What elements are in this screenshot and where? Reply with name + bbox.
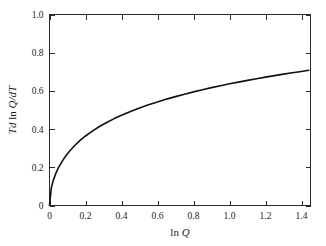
y-tick-label: 0.2: [32, 163, 44, 173]
line-chart: 00.20.40.60.81.01.21.4 00.20.40.60.81.0 …: [0, 0, 326, 246]
y-tick-label: 0: [39, 201, 44, 211]
x-tick-label: 1.0: [224, 211, 236, 221]
x-tick-label: 1.2: [260, 211, 272, 221]
figure-background: [0, 0, 326, 246]
x-tick-label: 0.6: [152, 211, 164, 221]
y-axis-title: Td ln Q/dT: [6, 85, 18, 134]
x-tick-label: 0.4: [116, 211, 128, 221]
y-tick-label: 0.4: [32, 125, 44, 135]
x-tick-label: 0: [47, 211, 52, 221]
y-tick-label: 0.8: [32, 48, 44, 58]
chart-figure: 00.20.40.60.81.01.21.4 00.20.40.60.81.0 …: [0, 0, 326, 246]
y-tick-label: 0.6: [32, 86, 44, 96]
x-axis-title: ln Q: [170, 226, 189, 238]
x-tick-label: 0.2: [80, 211, 92, 221]
x-tick-label: 0.8: [188, 211, 200, 221]
y-tick-label: 1.0: [32, 10, 44, 20]
x-tick-label: 1.4: [296, 211, 308, 221]
